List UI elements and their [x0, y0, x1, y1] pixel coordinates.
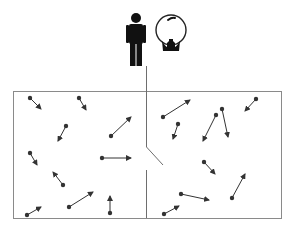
particle: [161, 100, 190, 119]
maxwell-demon-diagram: [0, 0, 292, 233]
particle-dot-icon: [108, 211, 112, 215]
velocity-arrow-icon: [53, 172, 63, 185]
particle-dot-icon: [28, 151, 32, 155]
particle: [53, 172, 65, 187]
particle: [25, 207, 41, 217]
velocity-arrow-icon: [173, 124, 178, 139]
velocity-arrow-icon: [30, 98, 41, 109]
particle-dot-icon: [162, 212, 166, 216]
velocity-arrow-icon: [204, 162, 215, 174]
velocity-arrow-icon: [203, 115, 216, 141]
particle-dot-icon: [67, 205, 71, 209]
particle: [109, 117, 131, 138]
particle: [108, 196, 112, 215]
particle-dot-icon: [230, 196, 234, 200]
particle: [173, 122, 180, 139]
particle: [28, 96, 41, 109]
velocity-arrow-icon: [27, 207, 41, 215]
particle: [203, 113, 218, 141]
velocity-arrow-icon: [163, 100, 190, 117]
particle: [230, 174, 245, 200]
velocity-arrow-icon: [245, 99, 256, 111]
particle-dot-icon: [161, 115, 165, 119]
particle: [58, 124, 68, 141]
particle-dot-icon: [61, 183, 65, 187]
velocity-arrow-icon: [69, 192, 93, 207]
particle-dot-icon: [214, 113, 218, 117]
particle-dot-icon: [64, 124, 68, 128]
particle-dot-icon: [202, 160, 206, 164]
crystal-ball-icon: [156, 15, 186, 51]
particle: [28, 151, 37, 165]
gas-particles: [25, 96, 258, 217]
particle: [100, 156, 131, 160]
velocity-arrow-icon: [232, 174, 245, 198]
particle-dot-icon: [179, 192, 183, 196]
particle-dot-icon: [100, 156, 104, 160]
particle-dot-icon: [25, 213, 29, 217]
particle-dot-icon: [220, 107, 224, 111]
particle-dot-icon: [77, 96, 81, 100]
particle-dot-icon: [176, 122, 180, 126]
person-icon: [126, 13, 146, 66]
trapdoor: [147, 147, 164, 165]
left-chamber-particles: [25, 96, 131, 217]
gas-container: [14, 92, 282, 219]
particle-dot-icon: [28, 96, 32, 100]
velocity-arrow-icon: [164, 206, 179, 214]
velocity-arrow-icon: [58, 126, 66, 141]
particle: [202, 160, 215, 174]
particle: [162, 206, 179, 216]
diagram-canvas: [0, 0, 292, 233]
velocity-arrow-icon: [222, 109, 228, 137]
velocity-arrow-icon: [111, 117, 131, 136]
velocity-arrow-icon: [181, 194, 209, 200]
particle: [67, 192, 93, 209]
partition-wall: [147, 66, 164, 218]
particle-dot-icon: [109, 134, 113, 138]
particle: [179, 192, 209, 200]
particle: [220, 107, 228, 137]
particle: [77, 96, 86, 110]
particle: [245, 97, 258, 111]
particle-dot-icon: [254, 97, 258, 101]
right-chamber-particles: [161, 97, 258, 216]
